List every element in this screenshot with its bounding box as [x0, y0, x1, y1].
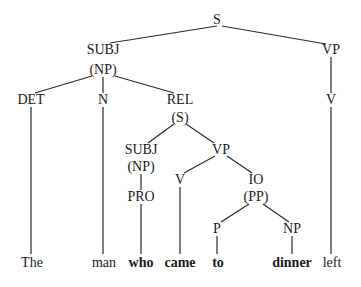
tree-edge: [263, 204, 289, 222]
node-io: IO: [249, 173, 264, 187]
node-subj2-np: (NP): [127, 160, 154, 174]
word-came: came: [164, 256, 195, 270]
word-dinner: dinner: [272, 256, 312, 270]
node-v2: V: [175, 173, 185, 187]
node-subj: SUBJ: [87, 43, 120, 57]
word-man: man: [92, 256, 116, 270]
tree-edge: [222, 26, 326, 44]
node-s: S: [213, 13, 221, 27]
node-subj2: SUBJ: [125, 143, 158, 157]
node-vp: VP: [322, 43, 340, 57]
node-subj-np: (NP): [89, 63, 116, 77]
word-to: to: [212, 256, 224, 270]
node-io-pp: (PP): [244, 190, 269, 204]
node-pro: PRO: [127, 190, 154, 204]
tree-edge: [221, 204, 249, 222]
tree-edge: [110, 26, 217, 43]
node-rel-s: (S): [171, 111, 188, 125]
node-det: DET: [17, 93, 44, 107]
word-left: left: [323, 256, 342, 270]
tree-edge: [148, 124, 174, 143]
tree-edge: [227, 156, 252, 173]
tree-edge: [184, 156, 215, 173]
node-n: N: [98, 93, 108, 107]
tree-edge: [186, 124, 214, 143]
node-rel: REL: [167, 93, 193, 107]
node-p: P: [213, 222, 221, 236]
tree-edge: [35, 76, 92, 93]
syntax-tree-edges: [0, 0, 361, 287]
node-vp2: VP: [212, 143, 230, 157]
node-np3: NP: [283, 222, 301, 236]
word-the: The: [21, 256, 43, 270]
word-who: who: [129, 256, 154, 270]
node-v-main: V: [326, 93, 336, 107]
tree-edge: [115, 76, 174, 93]
